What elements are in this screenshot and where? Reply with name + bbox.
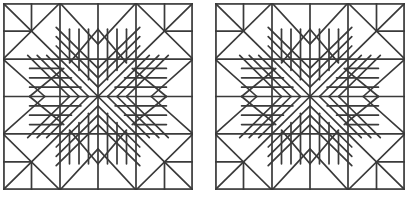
star-tip [242, 68, 276, 96]
star-tip [98, 130, 127, 164]
star-tip [70, 130, 99, 164]
star-tip [282, 130, 311, 164]
star-tip [344, 68, 378, 96]
star-tip [310, 29, 339, 63]
star-tip [30, 68, 64, 96]
quilt-block-left: Quilt block A [3, 3, 193, 190]
star-tip [310, 130, 339, 164]
star-tip [282, 29, 311, 63]
star-tip [132, 68, 166, 96]
star-tip [70, 29, 99, 63]
quilt-drawing-left [3, 3, 193, 190]
quilt-block-right: Quilt block B [215, 3, 405, 190]
quilt-drawing-right [215, 3, 405, 190]
star-tip [132, 97, 166, 125]
star-tip [242, 97, 276, 125]
star-tip [98, 29, 127, 63]
star-tip [30, 97, 64, 125]
star-tip [344, 97, 378, 125]
